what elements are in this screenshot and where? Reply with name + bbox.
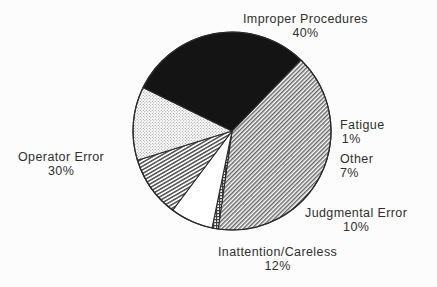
slice-label-other-name: Other — [340, 152, 379, 166]
slice-label-judgmental-error-pct: 10% — [305, 220, 407, 234]
slice-label-fatigue-name: Fatigue — [340, 118, 385, 132]
slice-label-operator-error-name: Operator Error — [18, 150, 104, 164]
slice-label-other-pct: 7% — [340, 166, 379, 180]
slice-label-judgmental-error: Judgmental Error 10% — [305, 206, 407, 234]
slice-label-improper-procedures-name: Improper Procedures — [243, 12, 368, 26]
slice-label-improper-procedures-pct: 40% — [243, 26, 368, 40]
pie-chart-figure: Improper Procedures 40% Fatigue 1% Other… — [0, 0, 437, 287]
slice-label-inattention-careless-name: Inattention/Careless — [218, 245, 337, 259]
slice-label-inattention-careless-pct: 12% — [218, 259, 337, 273]
slice-label-inattention-careless: Inattention/Careless 12% — [218, 245, 337, 273]
slice-label-operator-error-pct: 30% — [18, 164, 104, 178]
slice-label-fatigue: Fatigue 1% — [340, 118, 385, 146]
slice-label-judgmental-error-name: Judgmental Error — [305, 206, 407, 220]
slice-label-other: Other 7% — [340, 152, 379, 180]
slice-label-operator-error: Operator Error 30% — [18, 150, 104, 178]
slice-label-improper-procedures: Improper Procedures 40% — [243, 12, 368, 40]
slice-label-fatigue-pct: 1% — [340, 132, 385, 146]
